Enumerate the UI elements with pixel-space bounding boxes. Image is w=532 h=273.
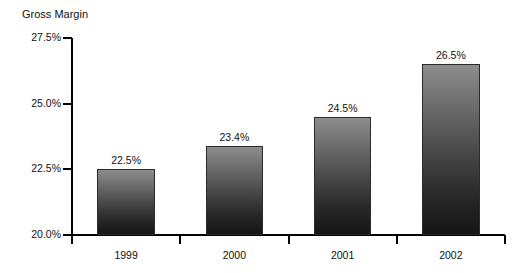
y-axis-tick-label: 25.0% [3,98,61,109]
chart-title: Gross Margin [22,8,88,21]
x-axis-category-label-2001: 2001 [289,249,397,261]
y-axis-line [71,38,73,236]
y-axis-tick [63,168,72,170]
y-axis-tick-label: 27.5% [3,32,61,43]
bar-value-label-2002: 26.5% [397,49,505,61]
y-axis-tick-label-wrap: 22.5% [0,163,61,174]
bar-2002 [422,64,479,235]
x-axis-tick [396,235,398,244]
x-axis-tick [179,235,181,244]
y-axis-tick-label: 20.0% [3,229,61,240]
bar-2000 [206,146,263,235]
x-axis-tick [504,235,506,244]
x-axis-category-label-1999: 1999 [72,249,180,261]
x-axis-tick [71,235,73,244]
y-axis-tick [63,37,72,39]
y-axis-tick-label: 22.5% [3,163,61,174]
bar-1999 [97,169,154,235]
x-axis-tick [288,235,290,244]
y-axis-tick-label-wrap: 25.0% [0,98,61,109]
y-axis-tick-label-wrap: 27.5% [0,32,61,43]
bar-2001 [314,117,371,235]
x-axis-category-label-2002: 2002 [397,249,505,261]
bar-value-label-1999: 22.5% [72,154,180,166]
bar-value-label-2001: 24.5% [289,102,397,114]
y-axis-tick [63,103,72,105]
gross-margin-bar-chart: Gross Margin 20.0%22.5%25.0%27.5% 199920… [0,0,532,273]
bar-value-label-2000: 23.4% [180,131,288,143]
y-axis-tick-label-wrap: 20.0% [0,229,61,240]
x-axis-category-label-2000: 2000 [180,249,288,261]
